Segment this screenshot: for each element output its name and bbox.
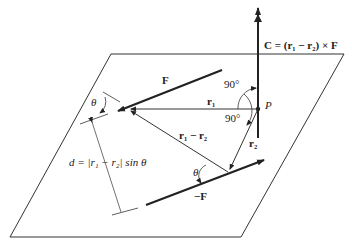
force-label: F — [162, 75, 169, 86]
r1-minus-r2-label: r₁ − r₂ — [179, 130, 207, 141]
angle-bottom-label: 90° — [225, 113, 240, 124]
r2-label: r₂ — [249, 138, 257, 149]
r1-label: r₁ — [207, 96, 215, 107]
theta-left-label: θ — [91, 97, 96, 108]
point-p-label: P — [265, 100, 272, 111]
neg-force-label: −F — [194, 191, 207, 202]
diagram-graphics — [0, 0, 352, 249]
angle-top-label: 90° — [224, 79, 239, 90]
distance-label: d = |r₁ − r₂| sin θ — [69, 157, 146, 168]
moment-label: C = (r₁ − r₂) × F — [264, 40, 338, 51]
theta-bottom-label: θ — [193, 167, 198, 178]
couple-moment-diagram: C = (r₁ − r₂) × F F −F r₁ r₂ r₁ − r₂ P 9… — [0, 0, 352, 249]
plane — [10, 54, 344, 237]
